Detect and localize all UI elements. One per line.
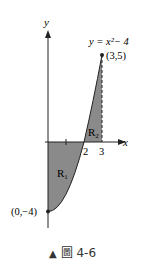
figure-caption: ▲圖 4-6: [0, 243, 145, 260]
caption-text: 圖 4-6: [61, 246, 96, 260]
point-bottom: [46, 210, 50, 214]
tick-3-label: 3: [99, 146, 104, 157]
graph-figure: y x y = x²− 4 (3,5) (0,−4) 2 3 R1 R2: [0, 0, 145, 240]
y-axis-arrow-icon: [45, 30, 51, 38]
point-top-label: (3,5): [106, 50, 127, 62]
y-axis-label: y: [43, 16, 49, 28]
tick-2-label: 2: [83, 146, 88, 157]
triangle-marker-icon: ▲: [49, 248, 57, 259]
point-top: [100, 53, 104, 57]
point-bottom-label: (0,−4): [11, 206, 38, 218]
x-axis-label: x: [122, 136, 128, 148]
equation-label: y = x²− 4: [88, 36, 130, 47]
